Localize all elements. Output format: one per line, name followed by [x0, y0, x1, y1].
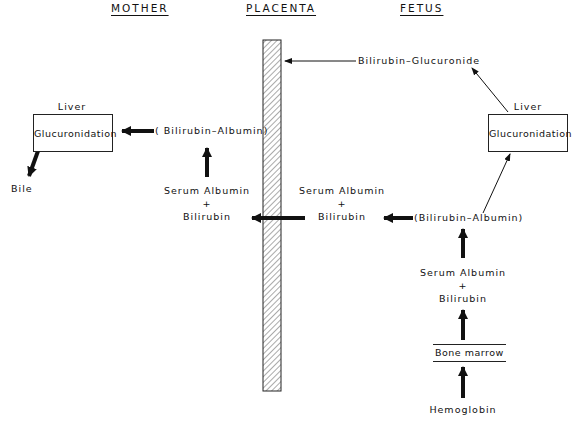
- mother-serum-albumin-bilirubin: Serum Albumin + Bilirubin: [164, 184, 250, 223]
- fetal-liver-label: Liver: [514, 102, 542, 112]
- arrow-liver-to-bile: [29, 151, 38, 176]
- fetal-liver-box: Glucuronidation: [488, 114, 568, 152]
- mother-bilirubin-albumin: ( Bilirubin–Albumin): [155, 126, 268, 136]
- mother-liver-label: Liver: [58, 102, 86, 112]
- placenta-barrier: [263, 40, 281, 391]
- mother-bilirubin-label: Bilirubin: [164, 210, 250, 223]
- fetal-bilirubin-label: Bilirubin: [420, 292, 506, 305]
- fetal-serum-albumin-bilirubin: Serum Albumin + Bilirubin: [420, 266, 506, 305]
- mother-glucuronidation-label: Glucuronidation: [34, 128, 112, 139]
- fetal-glucuronidation-label: Glucuronidation: [489, 128, 567, 139]
- mother-liver-box: Glucuronidation: [33, 114, 113, 152]
- mother-plus-sign: +: [164, 197, 250, 210]
- transfer-serum-albumin-label: Serum Albumin: [299, 184, 385, 197]
- bilirubin-glucuronide-label: Bilirubin–Glucuronide: [358, 56, 480, 66]
- arrow-fetal-complex-to-liver: [483, 154, 510, 213]
- transfer-serum-albumin-bilirubin: Serum Albumin + Bilirubin: [299, 184, 385, 223]
- transfer-bilirubin-label: Bilirubin: [299, 210, 385, 223]
- fetal-bilirubin-albumin: (Bilirubin–Albumin): [414, 213, 523, 223]
- transfer-plus-sign: +: [299, 197, 385, 210]
- hemoglobin-label: Hemoglobin: [429, 405, 496, 415]
- fetal-plus-sign: +: [420, 279, 506, 292]
- bone-marrow-label: Bone marrow: [433, 344, 506, 362]
- arrow-fetal-liver-to-glucuronide: [472, 68, 508, 112]
- bile-label: Bile: [11, 184, 33, 194]
- mother-serum-albumin-label: Serum Albumin: [164, 184, 250, 197]
- fetal-serum-albumin-label: Serum Albumin: [420, 266, 506, 279]
